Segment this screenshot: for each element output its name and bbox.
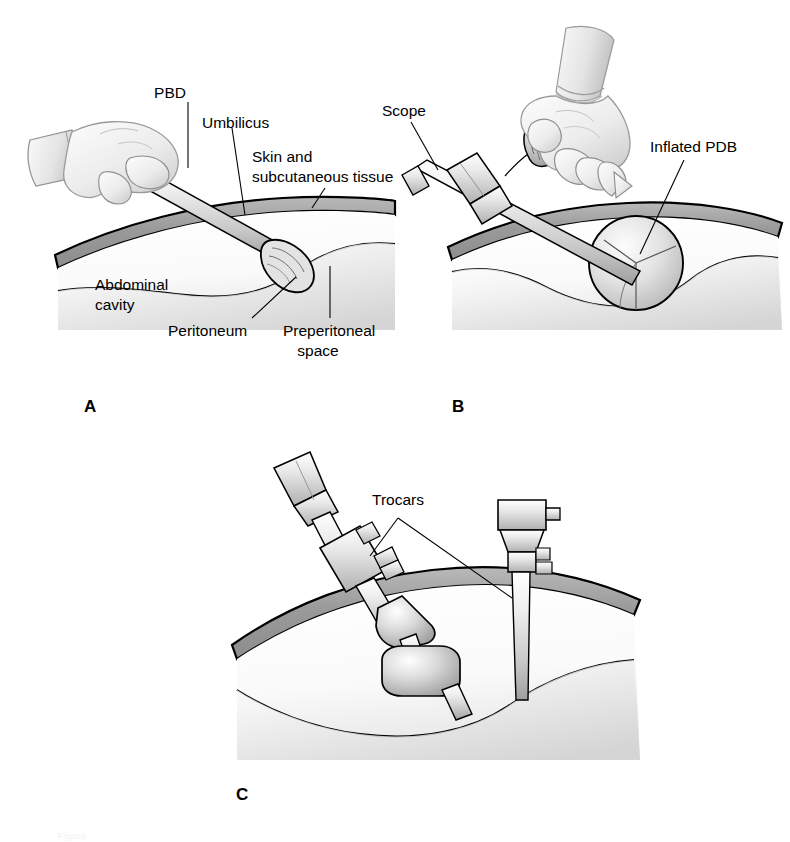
label-preperitoneal-line1: Preperitoneal [283, 322, 375, 339]
label-abdominal-line1: Abdominal [95, 276, 168, 293]
right-stopcock-2 [536, 562, 552, 574]
medical-illustration-figure: PBD Umbilicus Skin and subcutaneous tiss… [0, 0, 790, 842]
label-trocars: Trocars [372, 491, 424, 508]
label-preperitoneal-line2: space [297, 342, 338, 359]
panel-letter-c: C [236, 785, 248, 804]
right-trocar-cannula [512, 572, 530, 700]
label-pbd: PBD [154, 84, 186, 101]
panel-letter-b: B [452, 397, 464, 416]
label-umbilicus: Umbilicus [202, 114, 269, 131]
right-stopcock-1 [536, 548, 550, 560]
caption-fragment: Figure [58, 831, 87, 841]
right-trocar-side-port [546, 508, 560, 520]
label-scope: Scope [382, 102, 426, 119]
right-trocar-head [498, 500, 546, 530]
label-skin-line1: Skin and [252, 148, 312, 165]
label-skin-line2: subcutaneous tissue [252, 168, 393, 185]
right-trocar-collar [508, 552, 536, 572]
glove-thumb-b [528, 119, 561, 152]
label-peritoneum: Peritoneum [168, 322, 247, 339]
figure-canvas: PBD Umbilicus Skin and subcutaneous tiss… [0, 0, 790, 842]
label-abdominal-line2: cavity [95, 296, 135, 313]
label-inflated-pdb: Inflated PDB [650, 138, 737, 155]
panel-letter-a: A [84, 397, 96, 416]
